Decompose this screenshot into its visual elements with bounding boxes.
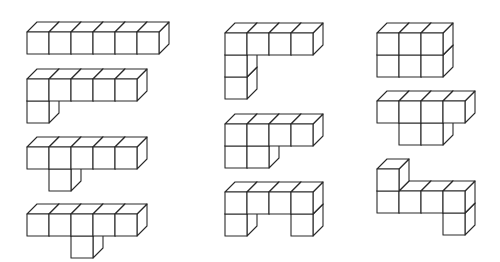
cube (421, 23, 453, 55)
cube-front-face (443, 191, 465, 213)
cube-front-face (93, 214, 115, 236)
cube-front-face (27, 79, 49, 101)
polycube-diagram (0, 0, 500, 262)
cube-front-face (291, 124, 313, 146)
cube-front-face (247, 146, 269, 168)
cube (115, 204, 147, 236)
cube-front-face (93, 147, 115, 169)
cube-front-face (377, 55, 399, 77)
cube-front-face (71, 79, 93, 101)
cube-front-face (247, 192, 269, 214)
cube-front-face (71, 32, 93, 54)
cube-front-face (49, 147, 71, 169)
cube (291, 23, 323, 55)
figure-1 (27, 22, 169, 54)
cube-front-face (225, 33, 247, 55)
figure-5 (225, 23, 323, 99)
cube (137, 22, 169, 54)
cube (291, 182, 323, 214)
cube-front-face (269, 33, 291, 55)
cube-front-face (137, 32, 159, 54)
cube-front-face (421, 33, 443, 55)
cube-front-face (93, 32, 115, 54)
cube-front-face (247, 124, 269, 146)
figure-6 (225, 114, 323, 168)
cube-front-face (377, 101, 399, 123)
cube-front-face (291, 33, 313, 55)
cube-front-face (421, 55, 443, 77)
cube (115, 137, 147, 169)
cube-front-face (225, 146, 247, 168)
cube-front-face (225, 214, 247, 236)
cube-front-face (71, 236, 93, 258)
cube-front-face (291, 214, 313, 236)
cube-front-face (27, 214, 49, 236)
cube-front-face (49, 32, 71, 54)
cube-front-face (225, 77, 247, 99)
cube-front-face (399, 191, 421, 213)
figure-2 (27, 69, 147, 123)
cube-front-face (115, 214, 137, 236)
cube (115, 69, 147, 101)
figure-9 (377, 91, 475, 145)
cube-front-face (377, 191, 399, 213)
cube-front-face (377, 169, 399, 191)
cube-front-face (269, 192, 291, 214)
cube-front-face (49, 169, 71, 191)
cube-front-face (377, 33, 399, 55)
cube-front-face (49, 79, 71, 101)
figure-10 (377, 159, 475, 235)
cube-front-face (443, 101, 465, 123)
cube-front-face (269, 124, 291, 146)
cube-front-face (225, 55, 247, 77)
cube-front-face (225, 192, 247, 214)
cube-front-face (115, 147, 137, 169)
cube-front-face (399, 123, 421, 145)
figure-8 (377, 23, 453, 77)
cube (443, 181, 475, 213)
cube-front-face (71, 147, 93, 169)
figure-4 (27, 204, 147, 258)
cube-front-face (399, 101, 421, 123)
cube-front-face (27, 147, 49, 169)
cube (443, 91, 475, 123)
cube-front-face (27, 101, 49, 123)
cube-front-face (247, 33, 269, 55)
cube (291, 114, 323, 146)
cube-front-face (399, 33, 421, 55)
cube-front-face (71, 214, 93, 236)
cube (377, 159, 409, 191)
cube-front-face (421, 191, 443, 213)
figure-3 (27, 137, 147, 191)
cube-front-face (443, 213, 465, 235)
cube-front-face (49, 214, 71, 236)
figure-7 (225, 182, 323, 236)
cube-front-face (421, 101, 443, 123)
cube-front-face (399, 55, 421, 77)
figures-group (27, 22, 475, 258)
cube-front-face (115, 32, 137, 54)
cube-front-face (27, 32, 49, 54)
cube-front-face (421, 123, 443, 145)
cube-front-face (225, 124, 247, 146)
cube-front-face (93, 79, 115, 101)
cube-front-face (291, 192, 313, 214)
cube-front-face (115, 79, 137, 101)
